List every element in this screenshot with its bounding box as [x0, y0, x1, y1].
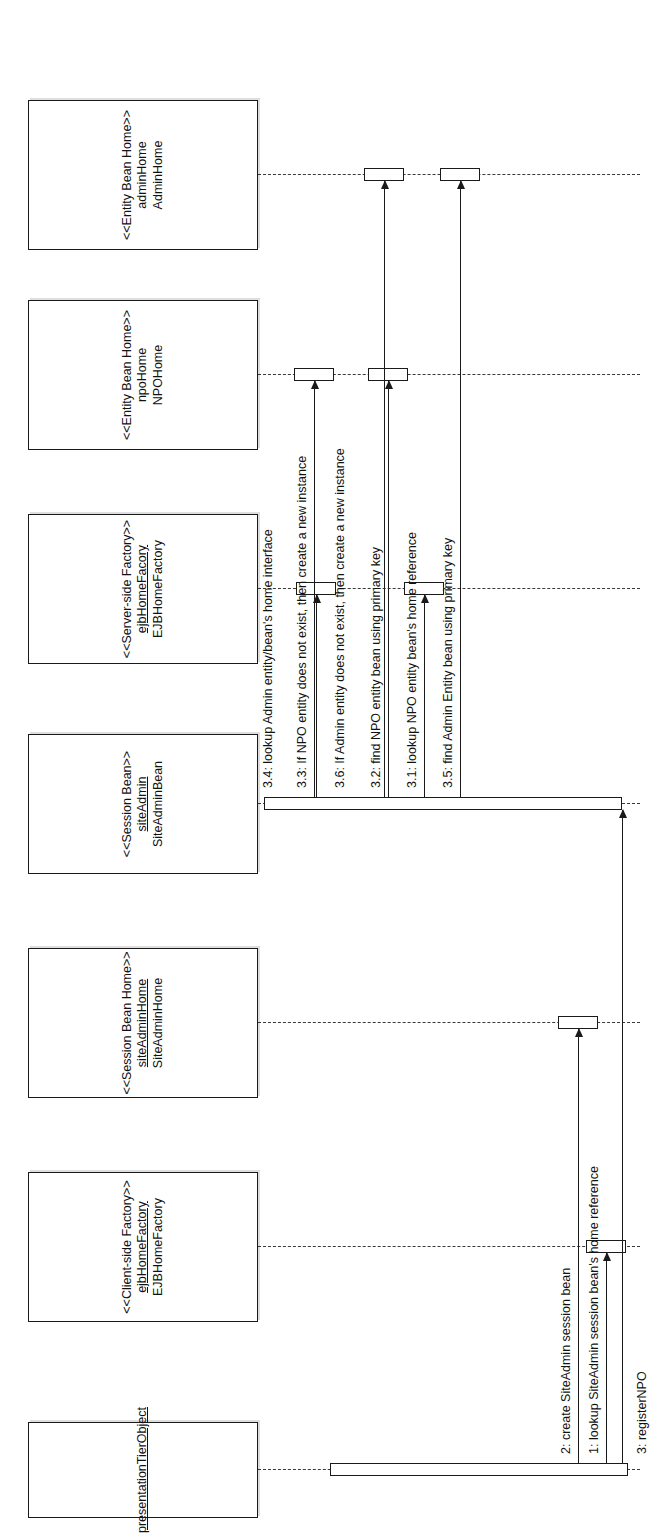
lifeline-head-server-factory[interactable]: <<Server-side Factory>> ejbHomeFacory EJ…: [28, 514, 258, 664]
lifeline-instance-npo-home: npoHome: [135, 348, 150, 402]
activation-session-bean: [264, 797, 622, 810]
arrowhead-icon: [311, 380, 319, 389]
message-label-3-2: 3.2: find NPO entity bean using primary …: [370, 547, 383, 788]
message-arrow-3[interactable]: [622, 810, 623, 1463]
message-label-3-4: 3.4: lookup Admin entity/bean's home int…: [262, 529, 275, 788]
lifeline-instance-client-factory: ejbHomeFactory: [135, 1201, 150, 1293]
lifeline-head-session-bean[interactable]: <<Session Bean>> siteAdmin SiteAdminBean: [28, 734, 258, 874]
message-arrow-3-3[interactable]: [314, 381, 315, 797]
arrowhead-icon: [421, 594, 429, 603]
message-arrow-3-6[interactable]: [384, 181, 385, 797]
message-arrow-3-5[interactable]: [460, 181, 461, 797]
message-arrow-1[interactable]: [606, 1253, 607, 1463]
arrowhead-icon: [575, 1028, 583, 1037]
activation-presentation: [330, 1463, 628, 1476]
message-label-1: 1: lookup SiteAdmin session bean's home …: [588, 1166, 601, 1454]
lifeline-stereotype-admin-home: <<Entity Bean Home>>: [120, 110, 135, 240]
lifeline-line-client-factory: [258, 1246, 640, 1247]
message-label-3: 3: registerNPO: [636, 1371, 649, 1454]
message-label-2: 2: create SiteAdmin session bean: [560, 1268, 573, 1454]
lifeline-instance-session-bean: siteAdmin: [135, 777, 150, 832]
lifeline-head-npo-home[interactable]: <<Entity Bean Home>> npoHome NPOHome: [28, 300, 258, 450]
message-arrow-2[interactable]: [578, 1029, 579, 1463]
lifeline-instance-session-home: siteAdminHome: [135, 979, 150, 1067]
arrowhead-icon: [619, 809, 627, 818]
lifeline-class-session-bean: SiteAdminBean: [151, 761, 166, 847]
lifeline-instance-presentation: presentationTierObject: [135, 1407, 150, 1533]
lifeline-head-presentation[interactable]: presentationTierObject: [28, 1422, 258, 1518]
arrowhead-icon: [603, 1252, 611, 1261]
lifeline-class-server-factory: EJBHomeFactory: [151, 540, 166, 638]
message-label-3-1: 3.1: lookup NPO entity bean's home refer…: [406, 532, 419, 788]
lifeline-head-session-home[interactable]: <<Session Bean Home>> siteAdminHome Site…: [28, 948, 258, 1098]
message-label-3-6: 3.6: If Admin entity does not exist, the…: [334, 448, 347, 788]
lifeline-instance-server-factory: ejbHomeFacory: [135, 545, 150, 633]
lifeline-instance-admin-home: adminHome: [135, 141, 150, 208]
arrowhead-icon: [457, 180, 465, 189]
lifeline-class-session-home: SiteAdminHome: [151, 978, 166, 1068]
sequence-diagram-canvas: presentationTierObject <<Client-side Fac…: [0, 0, 672, 1540]
message-arrow-3-4[interactable]: [316, 595, 317, 797]
lifeline-head-client-factory[interactable]: <<Client-side Factory>> ejbHomeFactory E…: [28, 1172, 258, 1322]
message-label-3-5: 3.5: find Admin Entity bean using primar…: [442, 538, 455, 788]
arrowhead-icon: [381, 180, 389, 189]
message-arrow-3-1[interactable]: [424, 595, 425, 797]
lifeline-class-npo-home: NPOHome: [151, 345, 166, 405]
lifeline-stereotype-session-bean: <<Session Bean>>: [120, 751, 135, 857]
lifeline-stereotype-client-factory: <<Client-side Factory>>: [120, 1180, 135, 1313]
arrowhead-icon: [385, 380, 393, 389]
arrowhead-icon: [313, 594, 321, 603]
lifeline-stereotype-session-home: <<Session Bean Home>>: [120, 951, 135, 1094]
message-label-3-3: 3.3: If NPO entity does not exist, then …: [296, 456, 309, 788]
lifeline-head-admin-home[interactable]: <<Entity Bean Home>> adminHome AdminHome: [28, 100, 258, 250]
lifeline-stereotype-npo-home: <<Entity Bean Home>>: [120, 310, 135, 440]
lifeline-class-client-factory: EJBHomeFactory: [151, 1198, 166, 1296]
lifeline-class-admin-home: AdminHome: [151, 141, 166, 210]
rotated-diagram-wrapper: presentationTierObject <<Client-side Fac…: [0, 0, 672, 1540]
message-arrow-3-2[interactable]: [388, 381, 389, 797]
lifeline-stereotype-server-factory: <<Server-side Factory>>: [120, 520, 135, 658]
